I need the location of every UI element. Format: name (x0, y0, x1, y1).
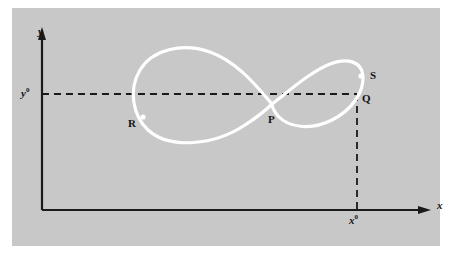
point-marker-R (140, 114, 145, 119)
point-label-S: S (370, 70, 376, 81)
y-axis-label: y (38, 26, 43, 37)
point-marker-S (358, 73, 363, 78)
figure-canvas (0, 0, 452, 256)
parametric-curve (133, 48, 363, 143)
figure-screenshot: y x y0 x0 P Q R S (0, 0, 452, 256)
point-label-Q: Q (362, 93, 371, 104)
x-axis-label: x (437, 200, 443, 211)
point-label-R: R (128, 118, 136, 129)
y-axis (38, 27, 46, 210)
x0-superscript: 0 (355, 213, 359, 221)
y0-tick-label: y0 (21, 87, 29, 99)
x0-tick-label: x0 (349, 214, 358, 226)
point-label-P: P (268, 114, 275, 125)
x-axis (42, 206, 431, 214)
y0-superscript: 0 (26, 86, 30, 94)
